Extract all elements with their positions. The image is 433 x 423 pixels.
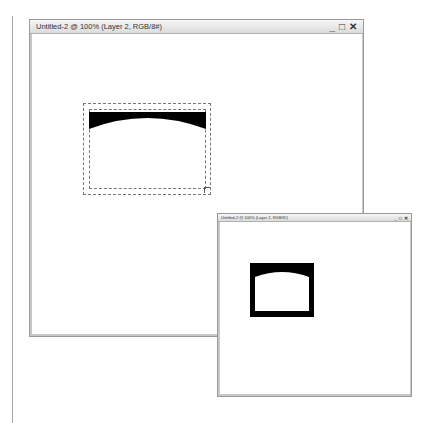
canvas-area[interactable] bbox=[218, 222, 411, 396]
window-title: Untitled-2 @ 100% (Layer 2, RGB/8#) bbox=[221, 215, 288, 220]
arched-band-shape bbox=[89, 109, 206, 129]
close-button[interactable]: ✕ bbox=[404, 215, 408, 221]
document-window-preview[interactable]: Untitled-2 @ 100% (Layer 2, RGB/8#) _ □ … bbox=[217, 213, 412, 397]
minimize-button[interactable]: _ bbox=[394, 215, 397, 221]
panel-divider-line bbox=[12, 16, 13, 423]
close-button[interactable]: ✕ bbox=[349, 21, 357, 32]
maximize-button[interactable]: □ bbox=[399, 215, 402, 221]
maximize-button[interactable]: □ bbox=[339, 21, 345, 32]
minimize-button[interactable]: _ bbox=[329, 21, 335, 32]
window-titlebar[interactable]: Untitled-2 @ 100% (Layer 2, RGB/8#) _ □ … bbox=[218, 214, 411, 222]
window-titlebar[interactable]: Untitled-2 @ 100% (Layer 2, RGB/8#) _ □ … bbox=[30, 20, 363, 34]
arched-frame-shape bbox=[250, 263, 314, 317]
window-title: Untitled-2 @ 100% (Layer 2, RGB/8#) bbox=[36, 22, 162, 31]
transform-handle-icon[interactable] bbox=[204, 187, 210, 193]
